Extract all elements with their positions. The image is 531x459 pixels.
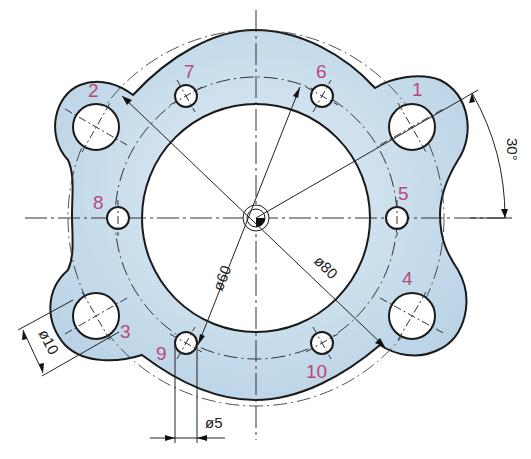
hole-label-6: 6 — [316, 61, 327, 82]
hole-label-2: 2 — [88, 80, 99, 101]
hole-label-7: 7 — [184, 61, 195, 82]
hole-label-1: 1 — [412, 79, 423, 100]
hole-label-3: 3 — [120, 321, 131, 342]
dim-angle-30: 30° — [504, 138, 521, 161]
dim-diameter-5: ø5 — [205, 414, 223, 431]
flange-drawing: 1 2 3 4 5 6 7 8 9 10 ø60 ø80 ø10 ø5 30° — [0, 0, 531, 459]
hole-label-4: 4 — [402, 268, 413, 289]
hole-label-8: 8 — [93, 192, 104, 213]
hole-label-10: 10 — [306, 361, 327, 382]
hole-label-5: 5 — [398, 183, 409, 204]
hole-label-9: 9 — [156, 343, 167, 364]
